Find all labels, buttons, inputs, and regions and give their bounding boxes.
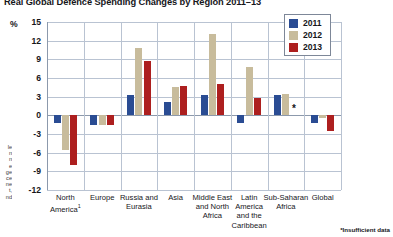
bar[interactable] — [254, 98, 261, 115]
bar-group — [121, 22, 158, 190]
bar[interactable] — [217, 84, 224, 115]
legend-item-label: 2012 — [303, 30, 322, 40]
chart-title: Real Global Defence Spending Changes by … — [4, 0, 261, 7]
bar[interactable] — [237, 115, 244, 123]
bar-group — [194, 22, 231, 190]
bar[interactable] — [246, 67, 253, 115]
bar[interactable] — [135, 48, 142, 115]
y-axis-tick: 0 — [1, 110, 41, 120]
no-data-marker: * — [292, 104, 296, 114]
bar[interactable] — [180, 86, 187, 115]
y-axis-tick: -3 — [1, 129, 41, 139]
legend-item-label: 2011 — [303, 18, 322, 28]
bar[interactable] — [274, 95, 281, 115]
bar-group — [231, 22, 268, 190]
bar[interactable] — [311, 115, 318, 123]
bar[interactable] — [327, 115, 334, 131]
bar[interactable] — [209, 34, 216, 115]
gridline-vertical — [341, 22, 342, 190]
bar[interactable] — [282, 94, 289, 116]
legend-item-label: 2013 — [303, 42, 322, 52]
y-axis-tick: 15 — [1, 17, 41, 27]
y-axis-tick: 3 — [1, 92, 41, 102]
bar[interactable] — [70, 115, 77, 165]
bar[interactable] — [127, 95, 134, 116]
bar[interactable] — [107, 115, 114, 125]
x-axis-category-label: Global — [293, 193, 352, 202]
legend: 2011 2012 2013 — [284, 14, 331, 56]
y-axis-tick: 9 — [1, 54, 41, 64]
bar-group — [157, 22, 194, 190]
legend-item-2011[interactable]: 2011 — [289, 18, 322, 28]
legend-swatch-icon — [289, 19, 298, 28]
legend-swatch-icon — [289, 43, 298, 52]
bar[interactable] — [99, 115, 106, 125]
bar[interactable] — [164, 102, 171, 116]
legend-item-2012[interactable]: 2012 — [289, 30, 322, 40]
bar[interactable] — [62, 115, 69, 149]
bar[interactable] — [90, 115, 97, 125]
legend-item-2013[interactable]: 2013 — [289, 42, 322, 52]
bar-group — [84, 22, 121, 190]
y-axis-tick: 6 — [1, 73, 41, 83]
bar[interactable] — [54, 115, 61, 123]
margin-caption-fragment: lennegecenet,nd — [0, 144, 12, 200]
legend-swatch-icon — [289, 31, 298, 40]
bar-group — [47, 22, 84, 190]
bar[interactable] — [201, 95, 208, 115]
bar[interactable] — [319, 115, 326, 118]
footnote: *Insufficient data — [340, 226, 390, 233]
y-axis-tick: 12 — [1, 36, 41, 46]
bar[interactable] — [144, 61, 151, 115]
gridline-horizontal — [47, 190, 341, 191]
bar[interactable] — [172, 87, 179, 116]
